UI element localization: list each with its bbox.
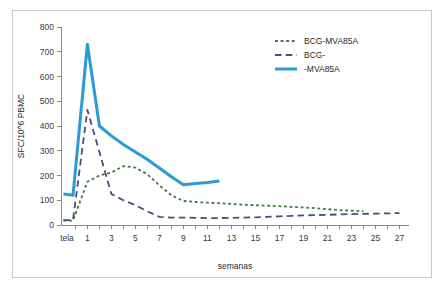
y-tick-label: 500 <box>40 96 54 106</box>
y-tick-label: 100 <box>40 195 54 205</box>
x-tick-label: 5 <box>133 233 138 243</box>
y-tick-label: 300 <box>40 146 54 156</box>
y-tick-label: 0 <box>49 220 54 230</box>
legend-label-2: -MVA85A <box>304 64 340 74</box>
y-tick-label: 800 <box>40 22 54 32</box>
y-tick-label: 600 <box>40 72 54 82</box>
y-tick-label: 700 <box>40 47 54 57</box>
y-tick-label: 400 <box>40 121 54 131</box>
y-axis-title: SFC/10^6 PBMC <box>16 94 26 158</box>
x-tick-label: 7 <box>157 233 162 243</box>
x-tick-label: 15 <box>251 233 261 243</box>
legend-label-0: BCG-MVA85A <box>304 36 358 46</box>
series-line-0 <box>63 166 363 220</box>
legend-label-1: BCG- <box>304 50 325 60</box>
y-tick-label: 200 <box>40 171 54 181</box>
x-axis-title: semanas <box>218 261 253 271</box>
x-tick-label: 23 <box>347 233 357 243</box>
line-chart: 0100200300400500600700800135791113151719… <box>13 11 431 277</box>
figure-border: 0100200300400500600700800135791113151719… <box>12 10 432 278</box>
x-tick-label: 9 <box>181 233 186 243</box>
x-tick-label: 21 <box>323 233 333 243</box>
figure-root: 0100200300400500600700800135791113151719… <box>0 0 448 294</box>
x-tick-label: 3 <box>109 233 114 243</box>
series-line-1 <box>63 110 399 220</box>
x-tick-label: 1 <box>85 233 90 243</box>
x-tick-label: 27 <box>395 233 405 243</box>
x-tick-label: 13 <box>227 233 237 243</box>
x-tick-label: 19 <box>299 233 309 243</box>
x-tick-label: 17 <box>275 233 285 243</box>
x-tick-label: 25 <box>371 233 381 243</box>
x-origin-label: tela <box>60 233 74 243</box>
x-tick-label: 11 <box>203 233 212 243</box>
